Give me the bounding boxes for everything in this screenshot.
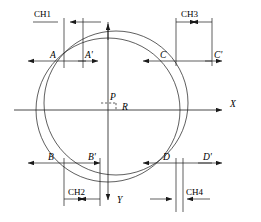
circle-offset-diagram: CH1 CH3 CH2 CH4 A A' C C' B B' D D' P R … — [0, 0, 261, 222]
label-ch4: CH4 — [186, 187, 204, 197]
diagram-canvas: CH1 CH3 CH2 CH4 A A' C C' B B' D D' P R … — [0, 0, 261, 222]
label-point-d: D — [162, 152, 170, 162]
label-ch2: CH2 — [68, 187, 85, 197]
label-center-p: P — [109, 92, 116, 102]
label-point-c-prime: C' — [214, 50, 223, 60]
label-point-a: A — [49, 50, 56, 60]
label-ch1: CH1 — [34, 9, 51, 19]
label-point-d-prime: D' — [202, 152, 213, 162]
label-ch3: CH3 — [181, 9, 199, 19]
label-point-b: B — [48, 152, 54, 162]
label-axis-x: X — [229, 99, 237, 109]
label-point-a-prime: A' — [84, 50, 94, 60]
label-radius-r: R — [121, 102, 128, 112]
label-point-c: C — [160, 50, 167, 60]
label-axis-y: Y — [117, 195, 124, 205]
label-point-b-prime: B' — [88, 152, 97, 162]
